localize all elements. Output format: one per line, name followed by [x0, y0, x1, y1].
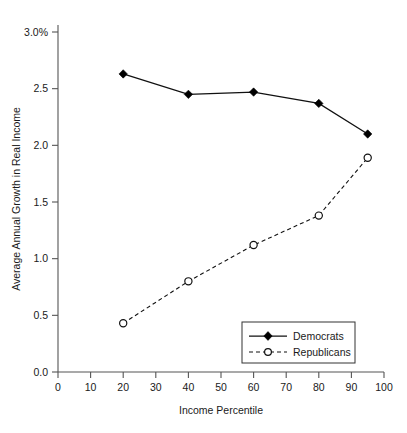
data-point-democrats [119, 70, 127, 78]
y-tick-label: 3.0% [24, 26, 48, 38]
x-tick-label: 90 [346, 381, 358, 393]
x-tick-label: 100 [375, 381, 393, 393]
legend: Democrats Republicans [242, 322, 355, 363]
data-point-republicans [315, 212, 322, 219]
data-point-republicans [185, 278, 192, 285]
x-tick-label: 60 [248, 381, 260, 393]
y-tick-label: 2.5 [33, 82, 48, 94]
x-tick-label: 30 [150, 381, 162, 393]
democrats-markers [119, 70, 372, 138]
republicans-markers [120, 154, 372, 327]
x-tick-label: 40 [183, 381, 195, 393]
data-point-republicans [364, 154, 371, 161]
x-tick-label: 70 [280, 381, 292, 393]
data-point-republicans [250, 241, 257, 248]
data-point-democrats [364, 130, 372, 138]
axes-group [58, 25, 384, 372]
y-axis-ticks: 0.00.51.01.52.02.53.0% [24, 26, 58, 378]
data-point-democrats [249, 88, 257, 96]
data-point-democrats [184, 90, 192, 98]
chart-container: 0.00.51.01.52.02.53.0% 01020304050607080… [0, 0, 407, 433]
x-tick-label: 50 [215, 381, 227, 393]
x-tick-label: 10 [85, 381, 97, 393]
y-tick-label: 1.5 [33, 196, 48, 208]
democrats-line [123, 74, 368, 134]
y-tick-label: 0.5 [33, 309, 48, 321]
x-axis-ticks: 0102030405060708090100 [55, 372, 393, 393]
data-point-democrats [315, 99, 323, 107]
y-tick-label: 1.0 [33, 252, 48, 264]
legend-republicans-marker-icon [265, 349, 272, 356]
x-tick-label: 20 [117, 381, 129, 393]
legend-label-democrats: Democrats [293, 330, 344, 342]
x-axis-title: Income Percentile [179, 404, 263, 416]
y-tick-label: 2.0 [33, 139, 48, 151]
legend-label-republicans: Republicans [293, 346, 351, 358]
series-layer [119, 70, 372, 327]
data-point-republicans [120, 320, 127, 327]
y-axis-title: Average Annual Growth in Real Income [10, 107, 22, 291]
republicans-line [123, 158, 368, 323]
y-tick-label: 0.0 [33, 366, 48, 378]
line-chart: 0.00.51.01.52.02.53.0% 01020304050607080… [0, 0, 407, 433]
x-tick-label: 80 [313, 381, 325, 393]
x-tick-label: 0 [55, 381, 61, 393]
